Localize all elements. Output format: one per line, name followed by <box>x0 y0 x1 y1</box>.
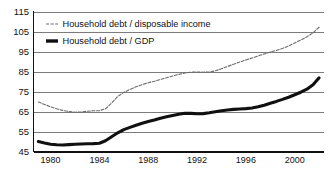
legend-label-1: Household debt / GDP <box>63 36 155 46</box>
y-tick-label-95: 95 <box>18 46 29 57</box>
y-tick-label-85: 85 <box>18 66 29 77</box>
series-line-household-debt-gdp <box>38 78 319 145</box>
y-tick-label-105: 105 <box>13 26 29 37</box>
chart-legend: Household debt / disposable incomeHouseh… <box>46 19 211 46</box>
y-tick-label-65: 65 <box>18 106 29 117</box>
gridlines-group <box>34 12 325 152</box>
y-axis-tick-labels: 455565758595105115 <box>13 6 29 157</box>
x-tick-label-2000: 2000 <box>285 155 305 165</box>
chart-figure: 455565758595105115 198019841988199219962… <box>0 0 329 177</box>
x-tick-label-1988: 1988 <box>138 155 158 165</box>
y-tick-label-45: 45 <box>18 146 29 157</box>
legend-label-0: Household debt / disposable income <box>63 19 211 29</box>
x-axis-tick-labels: 198019841988199219962000 <box>41 155 305 165</box>
y-tick-label-55: 55 <box>18 126 29 137</box>
x-tick-label-1992: 1992 <box>187 155 207 165</box>
y-tick-label-75: 75 <box>18 86 29 97</box>
x-tick-label-1980: 1980 <box>41 155 61 165</box>
x-tick-label-1984: 1984 <box>89 155 109 165</box>
x-tick-label-1996: 1996 <box>236 155 256 165</box>
line-chart: 455565758595105115 198019841988199219962… <box>0 0 329 177</box>
y-tick-label-115: 115 <box>14 6 29 17</box>
